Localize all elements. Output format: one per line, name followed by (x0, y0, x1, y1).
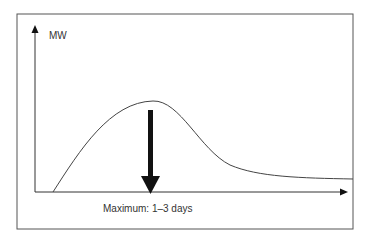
y-axis-arrow-icon (32, 25, 39, 33)
maximum-annotation: Maximum: 1–3 days (103, 203, 192, 214)
x-axis (35, 189, 348, 196)
y-axis (32, 25, 39, 192)
response-curve (53, 101, 353, 192)
maximum-arrow (141, 110, 160, 194)
down-arrow-icon (141, 176, 160, 194)
y-axis-label: MW (49, 30, 67, 41)
x-axis-arrow-icon (340, 189, 348, 196)
